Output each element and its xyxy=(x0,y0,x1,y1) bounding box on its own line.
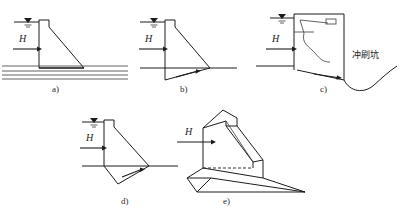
flow-arrow-shaft xyxy=(314,74,337,78)
dam-toe-edge xyxy=(253,160,263,162)
dam-downstream-face xyxy=(114,127,149,166)
force-label-H: H xyxy=(144,33,153,44)
dam-downstream-face xyxy=(175,27,210,68)
wedge-failure-plane-front xyxy=(211,178,305,192)
caption-e: e) xyxy=(223,196,230,206)
subfigure-b-drawing: H xyxy=(132,0,247,100)
wedge-top-back-line xyxy=(203,168,263,178)
caption-a: a) xyxy=(52,84,59,94)
overflow-nappe-curve xyxy=(303,33,330,62)
subfigure-e-drawing: H xyxy=(175,100,315,212)
force-arrow-head xyxy=(211,140,216,145)
force-label-H: H xyxy=(18,33,27,44)
scour-pit-label: 冲刷坑 xyxy=(352,49,379,60)
gate-leaf-line xyxy=(300,20,304,33)
scour-pit-curve xyxy=(344,66,397,91)
force-label-H: H xyxy=(184,126,193,137)
caption-d: d) xyxy=(121,196,129,206)
wedge-inner-edge xyxy=(197,178,211,192)
dam-downstream-face xyxy=(49,27,84,68)
force-label-H: H xyxy=(271,33,280,44)
dam-top-back-edge xyxy=(223,110,237,118)
wedge-failure-plane xyxy=(118,166,149,184)
wedge-left-plane xyxy=(187,178,197,192)
subfigure-a: H a) xyxy=(0,0,130,100)
caption-b: b) xyxy=(180,84,188,94)
wedge-left-plane xyxy=(104,166,118,184)
subfigure-e: H e) xyxy=(175,100,315,212)
dam-downstream-face-front xyxy=(226,126,253,162)
gate-arm-line xyxy=(300,20,328,23)
wedge-failure-plane-back xyxy=(263,178,305,192)
subfigure-a-drawing: H xyxy=(0,0,130,100)
subfigure-c: H 冲刷坑 c) xyxy=(252,0,401,100)
force-label-H: H xyxy=(85,132,94,143)
slide-arrow-head xyxy=(196,69,201,74)
slide-arrow-shaft xyxy=(176,72,196,78)
caption-c: c) xyxy=(320,84,327,94)
wedge-upstream-edge xyxy=(187,168,203,178)
subfigure-b: H b) xyxy=(132,0,247,100)
